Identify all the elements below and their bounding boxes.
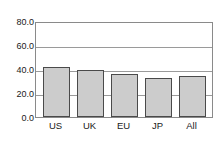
bar-us[interactable] [43, 67, 70, 117]
x-axis-label-eu: EU [110, 120, 137, 131]
bar-slot-us [43, 23, 70, 117]
x-axis-label-uk: UK [76, 120, 103, 131]
x-axis-label-us: US [42, 120, 69, 131]
bar-slot-uk [77, 23, 104, 117]
y-axis-label-40: 40.0 [2, 66, 34, 75]
bar-slot-all [179, 23, 206, 117]
y-axis-label-20: 20.0 [2, 90, 34, 99]
y-axis-label-60: 60.0 [2, 42, 34, 51]
bar-slot-eu [111, 23, 138, 117]
bar-all[interactable] [179, 76, 206, 117]
bar-jp[interactable] [145, 78, 172, 117]
bar-slot-jp [145, 23, 172, 117]
x-axis-label-all: All [178, 120, 205, 131]
x-axis-label-jp: JP [144, 120, 171, 131]
plot-area [35, 22, 213, 118]
y-axis-label-0: 0.0 [2, 114, 34, 123]
bar-group [36, 23, 212, 117]
bar-uk[interactable] [77, 70, 104, 117]
bar-eu[interactable] [111, 74, 138, 117]
y-axis-label-80: 80.0 [2, 18, 34, 27]
bar-chart: 80.0 60.0 40.0 20.0 0.0 US UK EU JP All [0, 0, 220, 147]
